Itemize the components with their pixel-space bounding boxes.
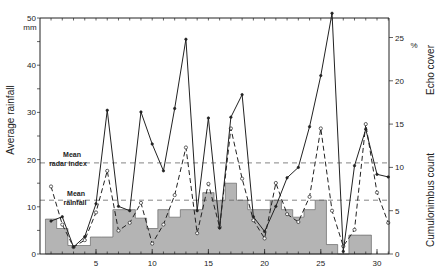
cumulonimbus-line-point [308,195,311,198]
rainfall-bars [45,183,371,254]
left-tick-label: 30 [27,108,36,117]
echo-cover-line-point [117,205,119,207]
cumulonimbus-line-point [375,191,378,194]
mean-radar-label-line2: radar index [49,160,87,167]
cumulonimbus-line-point [106,169,109,172]
echo-cover-line-point [308,125,310,127]
cumulonimbus-line-point [83,239,86,242]
echo-cover-line-point [173,107,175,109]
left-tick-label: 10 [27,203,36,212]
cumulonimbus-line-point [285,213,288,216]
cumulonimbus-line-point [94,211,97,214]
x-tick-label: 5 [94,259,99,268]
echo-cover-line-point [84,235,86,237]
rainfall-histogram [45,183,371,254]
echo-cover-line-point [61,216,63,218]
left-tick-label: 0 [32,250,37,259]
cumulonimbus-line-point [173,194,176,197]
cumulonimbus-line-point [151,242,154,245]
echo-tick-label: 15 [395,120,404,129]
echo-axis-title: Echo cover [425,44,436,95]
echo-cover-line-point [252,216,254,218]
echo-cover-line-point [275,205,277,207]
echo-cover-line-point [185,38,187,40]
cumulonimbus-line-point [184,146,187,149]
echo-cover-line-point [207,117,209,119]
cumulonimbus-line-point [117,229,120,232]
left-tick-label: 50 [27,14,36,23]
chart-container: 51015202530010203040501520250510 mm % Av… [0,0,446,273]
echo-cover-line-point [106,109,108,111]
echo-cover-line-point [297,166,299,168]
cumulonimbus-line-point [139,201,142,204]
left-axis-unit: mm [23,23,37,32]
chart-svg: 51015202530010203040501520250510 mm % Av… [0,0,446,273]
cb-axis-title: Cumulonimbus count [425,153,436,247]
cumulonimbus-line-point [49,185,52,188]
echo-cover-line-point [218,227,220,229]
cumulonimbus-line-point [353,228,356,231]
x-tick-label: 25 [316,259,325,268]
cumulonimbus-line-point [241,177,244,180]
cumulonimbus-line-point [196,232,199,235]
cumulonimbus-line-point [207,182,210,185]
echo-cover-line-point [376,173,378,175]
mean-radar-label-line1: Mean [63,151,81,158]
mean-rainfall-label-line2: rainfall [64,199,87,206]
echo-cover-line-point [140,111,142,113]
echo-cover-line-point [95,203,97,205]
cumulonimbus-line-point [297,220,300,223]
echo-cover-line-point [151,143,153,145]
echo-cover-line-point [353,164,355,166]
cumulonimbus-line-point [364,123,367,126]
cumulonimbus-line-point [263,237,266,240]
echo-cover-line-point [331,12,333,14]
cumulonimbus-line-point [61,223,64,226]
cb-tick-label: 5 [395,207,400,216]
echo-cover-line-point [129,210,131,212]
cumulonimbus-line-point [330,209,333,212]
echo-cover-line-point [263,230,265,232]
echo-cover-line-point [365,128,367,130]
echo-cover-line-point [286,177,288,179]
cumulonimbus-line-point [274,181,277,184]
cumulonimbus-line-point [319,127,322,130]
left-axis-title: Average rainfall [5,85,16,154]
echo-cover-line-point [320,74,322,76]
x-tick-label: 30 [373,259,382,268]
echo-cover-line-point [230,116,232,118]
right-axis-unit: % [410,41,417,50]
cumulonimbus-line-point [128,221,131,224]
x-tick-label: 20 [260,259,269,268]
echo-tick-label: 20 [395,77,404,86]
left-tick-label: 20 [27,156,36,165]
cumulonimbus-line-point [252,219,255,222]
echo-cover-line-point [72,246,74,248]
cumulonimbus-line-point [162,223,165,226]
x-tick-label: 10 [148,259,157,268]
echo-tick-label: 25 [395,34,404,43]
cb-tick-label: 10 [395,163,404,172]
left-tick-label: 40 [27,61,36,70]
cb-tick-label: 0 [395,250,400,259]
echo-cover-line-point [162,170,164,172]
x-tick-label: 15 [204,259,213,268]
mean-rainfall-label-line1: Mean [67,190,85,197]
echo-cover-line-point [50,220,52,222]
echo-cover-line-point [241,93,243,95]
echo-cover-line-point [196,210,198,212]
